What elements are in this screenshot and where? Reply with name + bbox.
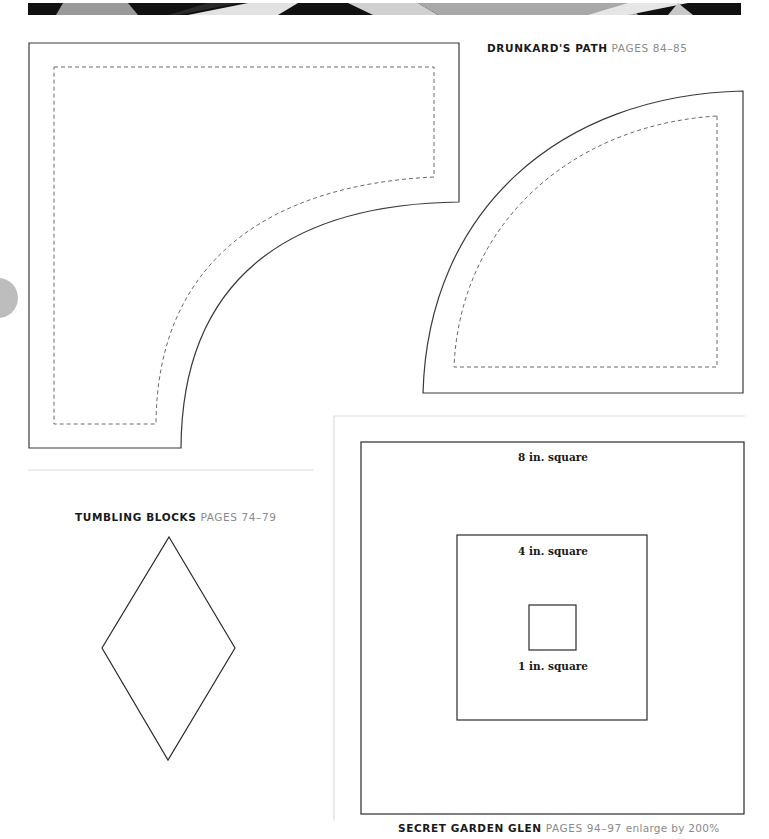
pattern-canvas xyxy=(0,0,769,839)
drunkards-path-pages: PAGES 84–85 xyxy=(612,42,688,54)
secret-garden-glen-pages: PAGES 94–97 xyxy=(546,822,622,834)
secret-garden-glen-note: enlarge by 200% xyxy=(626,822,720,834)
square-1in xyxy=(529,605,576,650)
square-4in-label: 4 in. square xyxy=(503,545,603,557)
square-4in xyxy=(457,535,647,720)
drunkards-path-title: DRUNKARD'S PATH xyxy=(487,42,608,54)
drunkards-path-large-seam-line xyxy=(54,67,434,424)
drunkards-path-quarter-seam-line xyxy=(454,116,717,367)
tumbling-blocks-caption: TUMBLING BLOCKSPAGES 74–79 xyxy=(75,511,276,523)
square-8in-label: 8 in. square xyxy=(503,451,603,463)
tumbling-blocks-title: TUMBLING BLOCKS xyxy=(75,511,196,523)
tumbling-blocks-diamond xyxy=(102,537,235,760)
drunkards-path-caption: DRUNKARD'S PATHPAGES 84–85 xyxy=(487,42,688,54)
tumbling-blocks-pages: PAGES 74–79 xyxy=(200,511,276,523)
square-8in xyxy=(361,442,744,814)
secret-garden-glen-title: SECRET GARDEN GLEN xyxy=(398,822,542,834)
drunkards-path-quarter-cut-line xyxy=(423,91,743,393)
drunkards-path-large-cut-line xyxy=(29,43,459,448)
square-1in-label: 1 in. square xyxy=(503,660,603,672)
secret-garden-glen-caption: SECRET GARDEN GLENPAGES 94–97enlarge by … xyxy=(398,822,720,834)
